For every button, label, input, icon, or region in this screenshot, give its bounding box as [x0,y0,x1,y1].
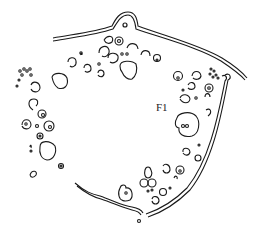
feature-label-f1: F1 [156,101,168,113]
top-features [52,36,161,88]
top-wall [53,12,247,80]
bottom-wall [75,183,143,215]
left-features [16,68,64,177]
right-features [174,68,220,174]
diagram-canvas: F1 [0,0,261,235]
plan-drawing [0,0,261,235]
